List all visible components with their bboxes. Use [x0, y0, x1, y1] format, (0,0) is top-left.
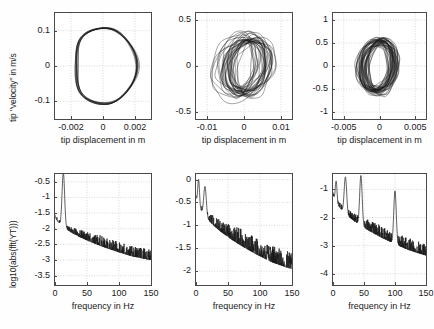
x-tick-label: 0.01: [256, 122, 306, 132]
x-tickmark: [333, 282, 334, 285]
y-tick-label: -0.5: [20, 176, 50, 186]
y-tick-label: -0.5: [161, 196, 191, 206]
y-tickmark: [195, 202, 198, 203]
y-tick-label: -1.5: [20, 207, 50, 217]
axes-phase-portrait-1: [54, 12, 152, 120]
x-tickmark: [344, 116, 345, 119]
x-tickmark: [292, 282, 293, 285]
y-tickmark: [54, 31, 57, 32]
x-tickmark: [228, 282, 229, 285]
y-tick-label: -1.5: [161, 242, 191, 252]
y-tick-label: -4: [298, 268, 328, 278]
y-tickmark: [195, 225, 198, 226]
axes-phase-portrait-3: [332, 12, 427, 120]
y-tick-label: 0.5: [298, 37, 328, 47]
y-tickmark: [332, 274, 335, 275]
figure-canvas: -0.100.1-0.00200.002tip displacement in …: [0, 0, 434, 329]
x-axis-label: tip displacement in m: [174, 135, 314, 145]
x-tickmark: [395, 282, 396, 285]
x-tickmark: [119, 282, 120, 285]
y-tick-label: 0: [298, 60, 328, 70]
x-tickmark: [71, 116, 72, 119]
x-tick-label: 0.005: [390, 122, 434, 132]
y-tick-label: -1: [298, 106, 328, 116]
y-tick-label: -2.5: [20, 238, 50, 248]
y-tickmark: [332, 246, 335, 247]
y-tickmark: [332, 20, 335, 21]
y-tickmark: [195, 66, 198, 67]
y-tick-label: -3: [298, 240, 328, 250]
y-tick-label: 0.5: [161, 14, 191, 24]
x-tick-label: 150: [401, 288, 434, 298]
y-tick-label: -2: [298, 212, 328, 222]
x-tickmark: [55, 282, 56, 285]
x-tickmark: [260, 282, 261, 285]
y-tickmark: [332, 189, 335, 190]
y-tickmark: [332, 112, 335, 113]
y-axis-label: log10(abs(fft(YT))): [8, 221, 18, 288]
x-tickmark: [415, 116, 416, 119]
axes-spectrum-1: [54, 173, 152, 286]
y-tick-label: -0.5: [298, 83, 328, 93]
x-tickmark: [244, 116, 245, 119]
y-tick-label: 0: [161, 60, 191, 70]
y-tickmark: [54, 66, 57, 67]
y-tick-label: -1: [298, 183, 328, 193]
x-tickmark: [151, 282, 152, 285]
y-tick-label: -1: [161, 219, 191, 229]
y-tick-label: -1: [20, 191, 50, 201]
x-tickmark: [103, 116, 104, 119]
x-tickmark: [135, 116, 136, 119]
y-tickmark: [54, 182, 57, 183]
y-tick-label: -2: [20, 223, 50, 233]
y-tick-label: 0.1: [20, 25, 50, 35]
y-tickmark: [195, 180, 198, 181]
y-tickmark: [332, 43, 335, 44]
y-tickmark: [54, 197, 57, 198]
y-tickmark: [54, 101, 57, 102]
x-tickmark: [364, 282, 365, 285]
y-tickmark: [195, 20, 198, 21]
x-tickmark: [380, 116, 381, 119]
axes-spectrum-2: [195, 173, 293, 286]
y-tickmark: [54, 213, 57, 214]
y-tickmark: [195, 112, 198, 113]
x-tickmark: [87, 282, 88, 285]
y-tickmark: [195, 271, 198, 272]
x-tickmark: [281, 116, 282, 119]
y-tickmark: [332, 89, 335, 90]
y-tick-label: 0: [161, 174, 191, 184]
x-axis-label: frequency in Hz: [33, 301, 173, 311]
axes-phase-portrait-2: [195, 12, 293, 120]
y-tickmark: [195, 248, 198, 249]
y-tick-label: -3.5: [20, 270, 50, 280]
y-tick-label: 0: [20, 60, 50, 70]
y-tickmark: [54, 260, 57, 261]
y-tick-label: -3: [20, 254, 50, 264]
x-axis-label: tip displacement in m: [33, 135, 173, 145]
x-tick-label: 0.002: [110, 122, 160, 132]
x-tickmark: [196, 282, 197, 285]
y-axis-label: tip "velocity" in m/s: [8, 53, 18, 122]
y-tickmark: [332, 66, 335, 67]
y-tickmark: [54, 229, 57, 230]
y-tickmark: [54, 244, 57, 245]
x-tickmark: [426, 282, 427, 285]
y-tick-label: -0.1: [20, 95, 50, 105]
x-axis-label: frequency in Hz: [310, 301, 434, 311]
x-axis-label: frequency in Hz: [174, 301, 314, 311]
x-tick-label: 150: [126, 288, 176, 298]
y-tick-label: 1: [298, 14, 328, 24]
x-tickmark: [207, 116, 208, 119]
y-tickmark: [332, 218, 335, 219]
y-tick-label: -0.5: [161, 106, 191, 116]
y-tickmark: [54, 276, 57, 277]
y-tick-label: -2: [161, 265, 191, 275]
x-axis-label: tip displacement in m: [310, 135, 434, 145]
axes-spectrum-3: [332, 173, 427, 286]
